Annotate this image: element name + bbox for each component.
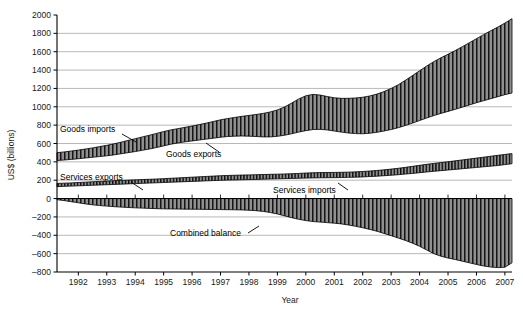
x-tick-label: 2003 [382,277,401,287]
chart-figure: –800–600–400–200020040060080010001200140… [0,0,523,311]
y-tick-label: 0 [46,194,51,204]
y-tick-label: 200 [37,175,51,185]
y-tick-label: 800 [37,120,51,130]
y-tick-label: 1400 [32,65,51,75]
y-tick-label: 1600 [32,47,51,57]
x-tick-label: 1996 [183,277,202,287]
trade-balance-area-chart: –800–600–400–200020040060080010001200140… [0,0,523,311]
x-tick-label: 2007 [495,277,514,287]
y-tick-label: 400 [37,157,51,167]
annotation-services-imports: Services imports [273,185,336,195]
y-tick-label: 1800 [32,28,51,38]
annotation-goods-imports: Goods imports [60,124,115,134]
y-tick-label: –200 [32,212,51,222]
x-tick-label: 1993 [97,277,116,287]
x-tick-label: 2006 [467,277,486,287]
x-tick-label: 1995 [154,277,173,287]
x-tick-label: 1998 [239,277,258,287]
x-tick-label: 1994 [126,277,145,287]
x-axis-title: Year [281,295,298,305]
x-tick-label: 2005 [439,277,458,287]
x-tick-label: 1997 [211,277,230,287]
annotation-goods-exports: Goods exports [166,149,221,159]
x-tick-label: 1999 [268,277,287,287]
annotation-combined-balance: Combined balance [170,228,241,238]
y-tick-label: 1000 [32,102,51,112]
y-tick-label: –400 [32,230,51,240]
y-tick-label: 600 [37,139,51,149]
y-tick-label: 2000 [32,10,51,20]
y-axis-title: US$ (billions) [6,130,16,181]
x-tick-label: 1992 [69,277,88,287]
annotation-services-exports: Services exports [60,172,123,182]
y-tick-label: 1200 [32,83,51,93]
x-tick-label: 2001 [325,277,344,287]
x-tick-label: 2004 [410,277,429,287]
y-tick-label: –600 [32,249,51,259]
x-tick-label: 2002 [353,277,372,287]
y-tick-label: –800 [32,267,51,277]
x-tick-label: 2000 [296,277,315,287]
